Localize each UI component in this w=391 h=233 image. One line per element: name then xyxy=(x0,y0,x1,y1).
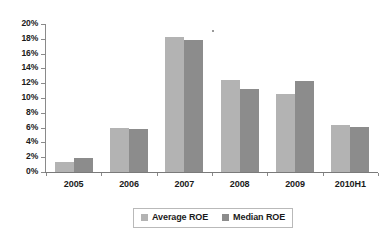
y-axis-tick-mark xyxy=(41,98,45,99)
bar-2009-median-roe xyxy=(295,81,314,172)
y-axis-tick-mark xyxy=(41,39,45,40)
y-axis-tick-mark xyxy=(41,157,45,158)
x-axis-tick-label-2007: 2007 xyxy=(154,179,214,190)
y-axis-tick-label: 4% xyxy=(4,137,38,146)
x-axis-tick-mark xyxy=(267,173,268,176)
y-axis-tick-label: 8% xyxy=(4,108,38,117)
plot-area xyxy=(46,24,378,172)
bar-2009-average-roe xyxy=(276,94,295,172)
bar-2010H1-median-roe xyxy=(350,127,369,172)
bar-2008-median-roe xyxy=(240,89,259,172)
x-axis-tick-mark xyxy=(323,173,324,176)
legend-swatch-icon xyxy=(141,214,148,221)
x-axis-tick-label-2005: 2005 xyxy=(44,179,104,190)
y-axis-tick-label: 0% xyxy=(4,167,38,176)
x-axis-tick-label-2006: 2006 xyxy=(99,179,159,190)
y-axis-tick-label: 20% xyxy=(4,19,38,28)
bar-2010H1-average-roe xyxy=(331,125,350,172)
x-axis-tick-mark xyxy=(157,173,158,176)
bar-2006-median-roe xyxy=(129,129,148,172)
x-axis-tick-mark xyxy=(212,173,213,176)
y-axis-tick-label: 2% xyxy=(4,152,38,161)
y-axis-tick-mark xyxy=(41,172,45,173)
y-axis-tick-mark xyxy=(41,24,45,25)
y-axis-tick-label: 18% xyxy=(4,34,38,43)
legend-entry-average-roe[interactable]: Average ROE xyxy=(141,212,208,223)
legend-entry-median-roe[interactable]: Median ROE xyxy=(222,212,285,223)
y-axis-tick-mark xyxy=(41,142,45,143)
y-axis-tick-label: 6% xyxy=(4,123,38,132)
x-axis-tick-label-2010H1: 2010H1 xyxy=(320,179,380,190)
x-axis-tick-label-2009: 2009 xyxy=(265,179,325,190)
bar-2008-average-roe xyxy=(221,80,240,172)
roe-bar-chart: 0%2%4%6%8%10%12%14%16%18%20% 20052006200… xyxy=(0,0,391,233)
bar-2005-average-roe xyxy=(55,162,74,172)
y-axis-tick-mark xyxy=(41,128,45,129)
chart-legend: Average ROEMedian ROE xyxy=(133,208,293,228)
bar-2007-median-roe xyxy=(184,40,203,172)
bar-2005-median-roe xyxy=(74,158,93,172)
legend-swatch-icon xyxy=(222,214,229,221)
bar-2007-average-roe xyxy=(165,37,184,172)
scan-artifact-speck xyxy=(212,30,214,32)
y-axis-tick-mark xyxy=(41,83,45,84)
y-axis-tick-mark xyxy=(41,68,45,69)
x-axis-tick-mark xyxy=(101,173,102,176)
y-axis-tick-label: 16% xyxy=(4,49,38,58)
legend-label: Average ROE xyxy=(152,212,208,223)
y-axis-tick-mark xyxy=(41,54,45,55)
y-axis-tick-label: 12% xyxy=(4,78,38,87)
y-axis-tick-mark xyxy=(41,113,45,114)
bar-2006-average-roe xyxy=(110,128,129,172)
x-axis-tick-mark xyxy=(46,173,47,176)
legend-label: Median ROE xyxy=(233,212,285,223)
x-axis-tick-mark xyxy=(378,173,379,176)
y-axis-tick-label: 10% xyxy=(4,93,38,102)
y-axis-tick-label: 14% xyxy=(4,63,38,72)
x-axis-tick-label-2008: 2008 xyxy=(210,179,270,190)
